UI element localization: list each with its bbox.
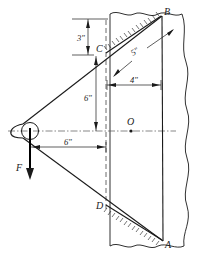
dimension-6in-horizontal: 6" [31,137,106,152]
wall-right-break-icon [182,14,189,246]
dimension-6in-vertical: 6" [84,56,98,131]
arrowhead-5in-lower [113,69,120,77]
force-vector-F: F [15,128,34,180]
bracket-upper-edge [23,16,162,124]
bracket-body [11,16,163,241]
dimension-label-4in: 4" [130,75,138,85]
force-arrow-head-icon [26,168,34,180]
hatch-marks-DA [104,208,159,245]
dimension-label-5in: 5" [129,45,141,58]
arrowhead-6in-h-right [97,145,105,149]
point-label-O: O [127,116,134,127]
arrowhead-4in-right [152,83,160,87]
bracket-vertical-edge [162,16,163,241]
hatch-marks-CB [104,12,159,50]
point-label-A: A [164,239,172,250]
arrowhead-6in-v-down [94,122,98,130]
dimension-4in: 4" [107,75,161,90]
support-hatch-DA [104,205,162,245]
support-bar-DA [106,205,162,240]
point-O-marker [129,129,132,132]
force-label-F: F [15,162,23,173]
wall-bottom-break-icon [110,244,184,247]
wall-top-break-icon [110,12,182,15]
figure-canvas: F [0,0,199,260]
dimension-label-6in-horizontal: 6" [64,137,72,147]
dimension-label-3in: 3" [76,33,85,43]
arrowhead-3in-down [86,46,90,54]
arrowhead-3in-up [86,20,90,28]
point-O: O [127,116,134,133]
engineering-figure: F [0,0,199,260]
arrowhead-5in-upper [167,29,174,36]
arrowhead-6in-v-up [94,57,98,65]
dimension-label-6in-vertical: 6" [84,93,92,103]
arrowhead-4in-left [108,83,116,87]
point-label-C: C [96,43,103,54]
point-label-B: B [164,6,170,17]
dimension-5in: 5" [113,29,174,77]
point-label-D: D [95,200,104,211]
bracket-lower-edge [23,138,163,241]
